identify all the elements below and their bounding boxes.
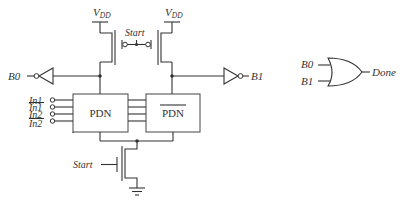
vdd-left-label: VDD bbox=[93, 6, 111, 20]
svg-text:PDN: PDN bbox=[162, 107, 184, 119]
pdn-block: PDN bbox=[73, 94, 128, 132]
start-label-top: Start bbox=[125, 27, 145, 38]
input-lines: In1 In1 In2 In2 bbox=[28, 95, 73, 129]
vdd-right-label: VDD bbox=[165, 6, 183, 20]
circuit-diagram: VDD VDD Start B0 bbox=[0, 0, 401, 207]
ground-icon bbox=[129, 188, 145, 195]
b0-label: B0 bbox=[8, 70, 21, 82]
done-label: Done bbox=[371, 66, 396, 78]
interblock-wires bbox=[128, 100, 146, 121]
b1-label: B1 bbox=[251, 70, 263, 82]
input-in2-bar: In2 bbox=[28, 118, 42, 129]
output-inverter-left: B0 bbox=[8, 68, 102, 84]
or-input-b0: B0 bbox=[301, 58, 314, 70]
pmos-right bbox=[158, 30, 172, 94]
pdn-complement-block: PDN bbox=[146, 94, 200, 132]
vdd-right: VDD bbox=[164, 6, 183, 33]
svg-text:PDN: PDN bbox=[89, 107, 111, 119]
evaluate-nmos: Start bbox=[73, 132, 173, 188]
output-inverter-right: B1 bbox=[170, 68, 263, 84]
or-gate-done: B0 B1 Done bbox=[301, 58, 396, 87]
pmos-left bbox=[100, 30, 115, 94]
vdd-left: VDD bbox=[92, 6, 111, 33]
precharge-start: Start bbox=[122, 27, 151, 49]
start-label-bottom: Start bbox=[73, 159, 93, 170]
or-input-b1: B1 bbox=[301, 75, 313, 87]
